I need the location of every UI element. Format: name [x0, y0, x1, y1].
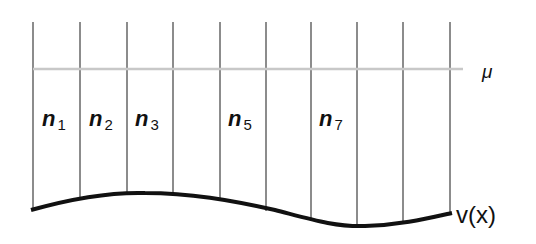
curve-label: v(x)	[456, 201, 496, 228]
cell-labels: n1 n2 n3 n5 n7	[42, 106, 343, 133]
potential-curve	[31, 193, 452, 226]
cell-label-n5: n5	[228, 106, 252, 133]
cell-label-n2: n2	[89, 106, 113, 133]
potential-diagram: μ v(x) n1 n2 n3 n5 n7	[0, 0, 536, 244]
cell-label-n7: n7	[319, 106, 343, 133]
cell-label-n1: n1	[42, 106, 66, 133]
cell-label-n3: n3	[135, 106, 159, 133]
mu-label: μ	[481, 61, 493, 82]
